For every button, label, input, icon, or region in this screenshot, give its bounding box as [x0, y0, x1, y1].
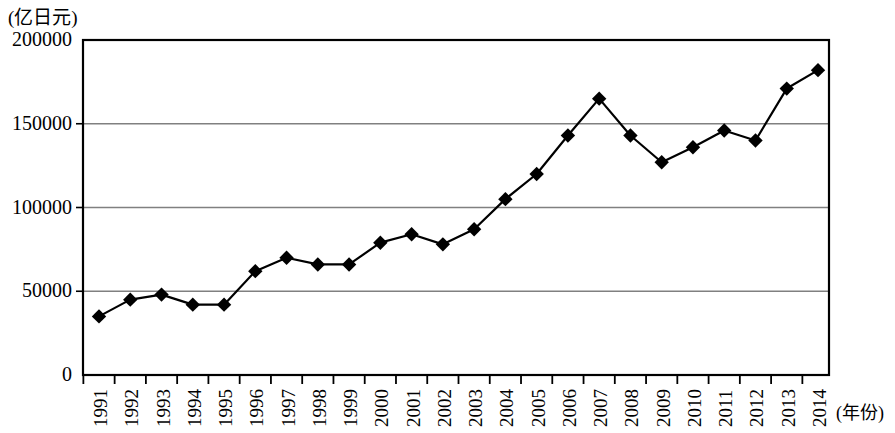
data-point-marker: [92, 309, 106, 323]
y-tick-label: 100000: [0, 197, 72, 217]
x-tick-label: 2001: [404, 389, 423, 427]
x-tick-label: 1998: [310, 389, 329, 427]
x-tick-label: 1996: [247, 389, 266, 427]
data-point-marker: [436, 237, 450, 251]
x-tick-label: 1992: [122, 389, 141, 427]
data-point-marker: [311, 257, 325, 271]
y-tick-label: 200000: [0, 29, 72, 49]
data-point-marker: [404, 227, 418, 241]
gridlines-group: [76, 124, 829, 292]
data-markers-group: [92, 63, 825, 324]
x-tick-label: 2013: [779, 389, 798, 427]
chart-plot-svg: [0, 0, 895, 433]
x-tick-label: 1999: [341, 389, 360, 427]
x-tick-label: 1995: [216, 389, 235, 427]
x-tick-label: 2004: [497, 389, 516, 427]
data-point-marker: [123, 292, 137, 306]
x-tick-label: 1993: [154, 389, 173, 427]
data-point-marker: [717, 123, 731, 137]
x-axis-title: (年份): [836, 398, 884, 424]
y-tick-label: 50000: [0, 280, 72, 300]
data-line: [99, 70, 818, 316]
x-tick-label: 2003: [466, 389, 485, 427]
x-tick-label: 2005: [529, 389, 548, 427]
data-point-marker: [748, 133, 762, 147]
x-tick-label: 2014: [810, 389, 829, 427]
data-point-marker: [186, 297, 200, 311]
y-tick-label: 0: [0, 364, 72, 384]
data-point-marker: [780, 81, 794, 95]
chart-container: (亿日元) 050000100000150000200000 199119921…: [0, 0, 895, 433]
data-point-marker: [686, 140, 700, 154]
x-tick-label: 2006: [560, 389, 579, 427]
x-tick-label: 2007: [591, 389, 610, 427]
series-line: [99, 70, 818, 316]
x-tick-label: 2002: [435, 389, 454, 427]
x-tick-label: 2008: [622, 389, 641, 427]
x-tick-label: 1991: [91, 389, 110, 427]
x-tick-marks: [83, 375, 802, 384]
data-point-marker: [342, 257, 356, 271]
data-point-marker: [154, 287, 168, 301]
data-point-marker: [811, 63, 825, 77]
x-tick-label: 2000: [372, 389, 391, 427]
data-point-marker: [279, 251, 293, 265]
y-tick-label: 150000: [0, 113, 72, 133]
x-tick-label: 2010: [685, 389, 704, 427]
x-tick-label: 2011: [716, 390, 735, 427]
x-tick-label: 1994: [185, 389, 204, 427]
data-point-marker: [373, 235, 387, 249]
x-tick-label: 1997: [279, 389, 298, 427]
x-tick-label: 2012: [747, 389, 766, 427]
x-tick-label: 2009: [654, 389, 673, 427]
